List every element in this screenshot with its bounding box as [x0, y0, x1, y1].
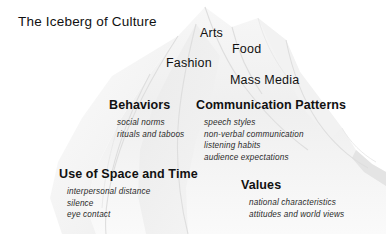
category-heading-behaviors: Behaviors: [109, 99, 170, 112]
category-items-behaviors: social norms rituals and taboos: [117, 117, 184, 140]
category-items-use-of-space-and-time: interpersonal distance silence eye conta…: [67, 186, 150, 221]
list-item: listening habits: [204, 140, 304, 152]
list-item: interpersonal distance: [67, 186, 150, 198]
iceberg-of-culture-diagram: The Iceberg of Culture Arts Food Fashion…: [0, 0, 386, 234]
page-title: The Iceberg of Culture: [18, 15, 157, 29]
category-heading-use-of-space-and-time: Use of Space and Time: [59, 168, 198, 181]
surface-label-mass-media: Mass Media: [230, 74, 299, 87]
list-item: audience expectations: [204, 152, 304, 164]
list-item: speech styles: [204, 117, 304, 129]
surface-label-food: Food: [232, 43, 261, 56]
list-item: silence: [67, 198, 150, 210]
surface-label-arts: Arts: [200, 27, 223, 40]
category-items-values: national characteristics attitudes and w…: [249, 197, 344, 220]
list-item: attitudes and world views: [249, 209, 344, 221]
iceberg-right-spur: [352, 150, 386, 186]
list-item: eye contact: [67, 209, 150, 221]
category-heading-values: Values: [241, 179, 281, 192]
list-item: social norms: [117, 117, 184, 129]
surface-label-fashion: Fashion: [166, 57, 212, 70]
category-heading-communication-patterns: Communication Patterns: [196, 99, 346, 112]
list-item: rituals and taboos: [117, 129, 184, 141]
list-item: national characteristics: [249, 197, 344, 209]
category-items-communication-patterns: speech styles non-verbal communication l…: [204, 117, 304, 163]
list-item: non-verbal communication: [204, 129, 304, 141]
